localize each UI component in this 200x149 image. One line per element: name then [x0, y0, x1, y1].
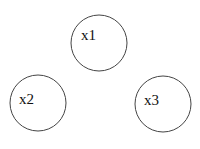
- diagram-canvas: x1 x2 x3: [0, 0, 200, 149]
- node-label: x1: [81, 27, 96, 43]
- node-x2: x2: [10, 75, 66, 131]
- node-label: x3: [144, 92, 159, 108]
- node-label: x2: [19, 91, 34, 107]
- node-x3: x3: [135, 76, 191, 132]
- node-x1: x1: [71, 15, 127, 71]
- node-circle: [71, 15, 127, 71]
